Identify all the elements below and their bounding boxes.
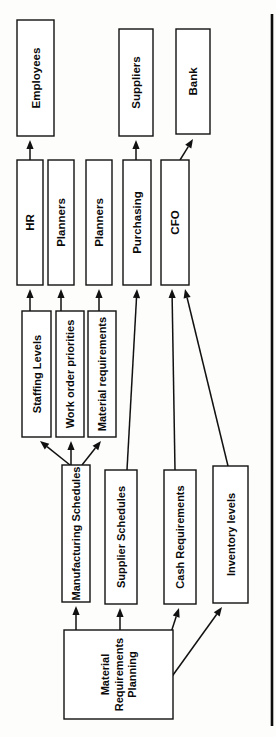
- arrowhead-icon: [184, 289, 191, 299]
- edge-invlevels-to-cfo: [184, 289, 228, 466]
- node-purchasing[interactable]: Purchasing: [123, 160, 151, 285]
- edge-line: [180, 147, 188, 160]
- arrowhead-icon: [173, 608, 180, 618]
- node-mrp[interactable]: MaterialRequirementsPlanning: [64, 630, 173, 719]
- arrowhead-icon: [67, 441, 74, 450]
- edge-line: [168, 614, 217, 682]
- node-label: Purchasing: [131, 191, 143, 254]
- node-label: Inventory levels: [225, 493, 237, 576]
- edge-line: [82, 448, 95, 465]
- node-label: Suppliers: [130, 56, 142, 108]
- arrowhead-icon: [132, 140, 139, 149]
- node-label: Work order priorities: [64, 320, 76, 429]
- node-label: Manufacturing Schedules: [70, 467, 82, 601]
- edge-mrp-to-mfgsched: [72, 606, 79, 630]
- diagram-canvas: EmployeesSuppliersBankHRPlannersPlanners…: [0, 0, 276, 737]
- node-employees[interactable]: Employees: [17, 20, 54, 136]
- arrowhead-icon: [185, 139, 193, 149]
- arrowhead-icon: [214, 607, 222, 616]
- edge-workorder-to-planners1: [57, 289, 64, 311]
- node-label: CFO: [169, 210, 181, 234]
- edge-staffing-to-hr: [26, 289, 33, 311]
- edge-purchasing-to-suppliers: [132, 140, 139, 160]
- node-bank[interactable]: Bank: [176, 29, 210, 134]
- node-staffing[interactable]: Staffing Levels: [22, 311, 51, 437]
- arrowhead-icon: [116, 608, 123, 617]
- arrowhead-icon: [95, 289, 102, 298]
- edge-materialreq-to-planners2: [95, 289, 102, 311]
- node-label: Material requirements: [96, 317, 108, 431]
- node-suppsched[interactable]: Supplier Schedules: [105, 470, 137, 604]
- edge-cashreq-to-cfo: [169, 289, 176, 470]
- edge-mrp-to-suppsched: [116, 608, 123, 630]
- mrp-flow-diagram: EmployeesSuppliersBankHRPlannersPlanners…: [0, 0, 276, 737]
- node-mfgsched[interactable]: Manufacturing Schedules: [62, 465, 90, 602]
- arrowhead-icon: [72, 606, 79, 615]
- node-invlevels[interactable]: Inventory levels: [213, 466, 248, 603]
- edge-line: [172, 298, 175, 470]
- node-label: Planners: [55, 198, 67, 247]
- arrowhead-icon: [133, 289, 140, 298]
- node-workorder[interactable]: Work order priorities: [56, 311, 84, 437]
- arrowhead-icon: [169, 289, 176, 298]
- edge-hr-to-employees: [26, 140, 33, 160]
- node-hr[interactable]: HR: [17, 160, 43, 285]
- node-label: Supplier Schedules: [115, 486, 127, 588]
- edge-line: [187, 298, 228, 466]
- node-label: Bank: [187, 67, 199, 96]
- edge-mfgsched-to-materialreq: [82, 441, 101, 465]
- arrowhead-icon: [57, 289, 64, 298]
- edge-mfgsched-to-staffing: [40, 441, 70, 465]
- arrowhead-icon: [26, 289, 33, 298]
- node-suppliers[interactable]: Suppliers: [119, 29, 153, 136]
- edge-suppsched-to-purchasing: [127, 289, 140, 470]
- node-label: Staffing Levels: [31, 335, 43, 413]
- node-label: Planners: [93, 198, 105, 247]
- node-cashreq[interactable]: Cash Requirements: [164, 470, 196, 604]
- edge-line: [47, 447, 70, 465]
- edge-line: [127, 298, 137, 470]
- node-label: Employees: [30, 48, 42, 109]
- node-materialreq[interactable]: Material requirements: [88, 311, 116, 437]
- edge-cfo-to-bank: [180, 139, 193, 160]
- node-label: Cash Requirements: [174, 485, 186, 588]
- node-planners2[interactable]: Planners: [86, 160, 112, 285]
- arrowhead-icon: [26, 140, 33, 149]
- edge-mfgsched-to-workorder: [67, 441, 74, 465]
- node-label: HR: [24, 214, 36, 231]
- node-cfo[interactable]: CFO: [161, 160, 189, 285]
- node-planners1[interactable]: Planners: [48, 160, 74, 285]
